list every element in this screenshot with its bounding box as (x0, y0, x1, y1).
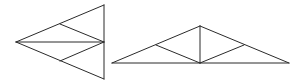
diagram-canvas (0, 0, 297, 84)
left-triangle (16, 5, 104, 79)
right-triangle-segment (200, 45, 244, 63)
right-triangle (112, 26, 289, 63)
left-triangle-segment (60, 42, 104, 61)
left-triangle-segment (60, 24, 104, 42)
triangle-subdivision-diagram (0, 0, 297, 84)
right-triangle-segment (156, 45, 200, 63)
